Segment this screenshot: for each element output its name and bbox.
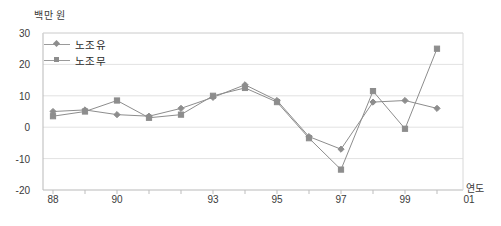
axis-lines xyxy=(43,33,463,190)
chart-container: 백만 원 연도 3020100-10-20 88909395979901 노조유… xyxy=(0,0,501,226)
x-axis-ticks xyxy=(53,190,437,194)
series-markers xyxy=(50,46,440,172)
chart-plot-area xyxy=(0,0,501,226)
gridlines xyxy=(43,33,463,190)
legend-label-1: 노조무 xyxy=(75,53,106,68)
series-lines xyxy=(53,49,437,170)
diamond-marker-icon xyxy=(44,39,70,49)
legend-item-1[interactable]: 노조무 xyxy=(44,52,106,68)
chart-legend: 노조유노조무 xyxy=(44,36,106,68)
square-marker-icon xyxy=(44,55,70,65)
legend-item-0[interactable]: 노조유 xyxy=(44,36,106,52)
legend-label-0: 노조유 xyxy=(75,37,106,52)
